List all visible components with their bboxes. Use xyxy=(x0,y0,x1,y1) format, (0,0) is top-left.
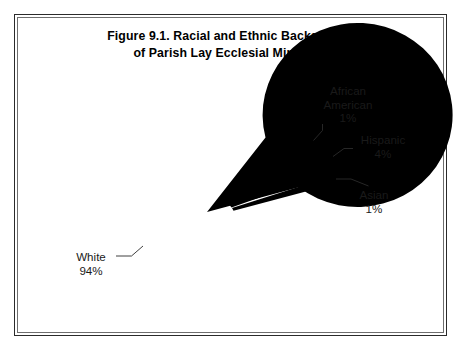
pie-label-asian-value: 1% xyxy=(341,202,407,216)
pie-label-asian-name: Asian xyxy=(341,188,407,202)
pie-label-hispanic-value: 4% xyxy=(345,147,421,161)
pie-label-african-american: African American 1% xyxy=(305,84,391,125)
figure-container: Figure 9.1. Racial and Ethnic Background… xyxy=(0,0,461,356)
pie-label-white: White 94% xyxy=(58,250,124,277)
pie-label-african-american-line-2: American xyxy=(305,98,391,112)
pie-label-asian: Asian 1% xyxy=(341,188,407,215)
pie-label-african-american-value: 1% xyxy=(305,111,391,125)
pie-label-white-name: White xyxy=(58,250,124,264)
pie-label-african-american-line-1: African xyxy=(305,84,391,98)
pie-label-white-value: 94% xyxy=(58,264,124,278)
pie-label-hispanic-name: Hispanic xyxy=(345,133,421,147)
pie-label-hispanic: Hispanic 4% xyxy=(345,133,421,160)
pie-chart xyxy=(0,0,461,356)
